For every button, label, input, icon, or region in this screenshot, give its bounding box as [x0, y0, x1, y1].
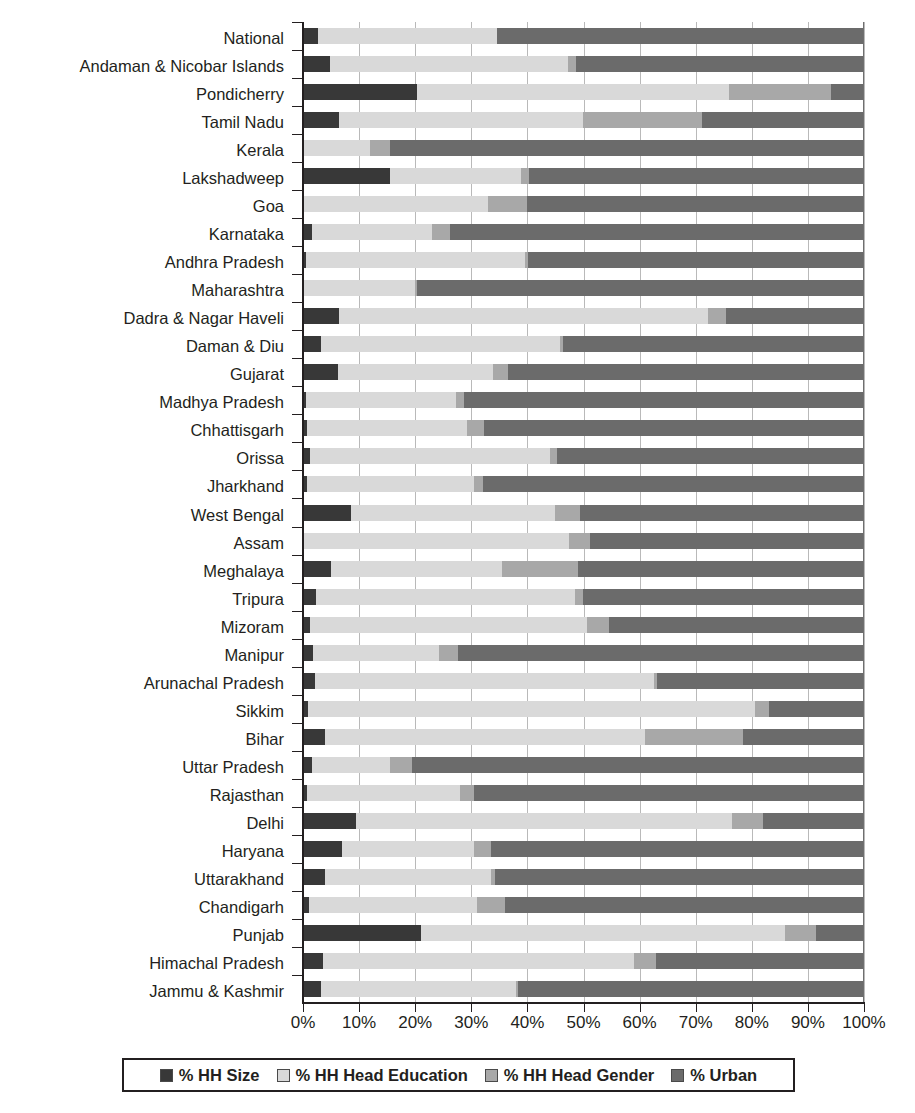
bar-segment [325, 869, 490, 885]
bar-segment [315, 673, 653, 689]
legend-label: % HH Size [179, 1066, 260, 1085]
bar-segment [351, 505, 555, 521]
legend-label: % Urban [690, 1066, 757, 1085]
bar-row [303, 981, 864, 997]
bar-segment [339, 308, 708, 324]
bar-segment [390, 757, 412, 773]
bar-row [303, 168, 864, 184]
bar-segment [657, 673, 864, 689]
y-axis-tick [292, 246, 303, 247]
y-axis-category-label: Bihar [0, 730, 292, 749]
y-axis-category-label: Manipur [0, 646, 292, 665]
gridline [864, 22, 865, 1003]
y-axis-tick [292, 274, 303, 275]
bar-segment [330, 56, 568, 72]
bar-row [303, 56, 864, 72]
bar-segment [303, 869, 325, 885]
bar-segment [432, 224, 450, 240]
y-axis-tick [292, 22, 303, 23]
bar-row [303, 729, 864, 745]
bar-segment [726, 308, 864, 324]
bar-segment [563, 336, 864, 352]
bar-row [303, 308, 864, 324]
legend-item[interactable]: % HH Head Gender [485, 1066, 654, 1085]
y-axis-tick [292, 50, 303, 51]
y-axis-category-label: Delhi [0, 814, 292, 833]
bar-segment [729, 84, 831, 100]
y-axis-category-label: National [0, 29, 292, 48]
bar-segment [303, 953, 323, 969]
bar-segment [310, 617, 588, 633]
bar-segment [645, 729, 743, 745]
y-axis-tick [292, 498, 303, 499]
y-axis-tick [292, 78, 303, 79]
y-axis-category-label: Uttarakhand [0, 870, 292, 889]
bar-row [303, 252, 864, 268]
bar-row [303, 280, 864, 296]
y-axis-category-label: Chandigarh [0, 898, 292, 917]
y-axis-tick [292, 975, 303, 976]
y-axis-category-label: West Bengal [0, 506, 292, 525]
bar-segment [303, 336, 321, 352]
bar-row [303, 224, 864, 240]
bar-segment [303, 673, 315, 689]
bar-segment [450, 224, 864, 240]
x-axis-tick-label: 10% [333, 1013, 385, 1033]
bar-segment [488, 196, 527, 212]
bar-segment [460, 785, 474, 801]
bar-segment [583, 112, 702, 128]
bar-segment [508, 364, 864, 380]
bar-segment [483, 476, 864, 492]
bar-segment [323, 953, 634, 969]
bar-row [303, 420, 864, 436]
bar-row [303, 841, 864, 857]
x-axis-tick-label: 50% [558, 1013, 610, 1033]
bar-segment [769, 701, 864, 717]
legend-item[interactable]: % HH Head Education [277, 1066, 468, 1085]
bar-segment [303, 813, 356, 829]
y-axis-category-label: Arunachal Pradesh [0, 674, 292, 693]
bar-segment [303, 56, 330, 72]
bar-segment [763, 813, 864, 829]
bar-segment [303, 280, 415, 296]
y-axis-tick [292, 947, 303, 948]
bar-row [303, 589, 864, 605]
y-axis-category-label: Maharashtra [0, 281, 292, 300]
bar-segment [732, 813, 763, 829]
y-axis-tick [292, 919, 303, 920]
y-axis-category-label: Dadra & Nagar Haveli [0, 309, 292, 328]
bar-segment [308, 701, 755, 717]
bar-segment [370, 140, 390, 156]
x-axis-tick [752, 1003, 753, 1012]
bar-segment [464, 392, 864, 408]
y-axis-tick [292, 330, 303, 331]
bar-segment [303, 925, 421, 941]
y-axis-line [302, 22, 304, 1003]
bar-segment [474, 841, 491, 857]
bar-row [303, 196, 864, 212]
legend-item[interactable]: % Urban [671, 1066, 757, 1085]
x-axis-tick [640, 1003, 641, 1012]
bar-segment [702, 112, 864, 128]
legend-item[interactable]: % HH Size [160, 1066, 260, 1085]
bar-segment [609, 617, 864, 633]
y-axis-tick [292, 611, 303, 612]
bar-row [303, 673, 864, 689]
plot-area [303, 22, 864, 1003]
bar-segment [325, 729, 645, 745]
bar-row [303, 448, 864, 464]
bar-segment [417, 280, 864, 296]
bar-segment [303, 84, 417, 100]
bar-segment [576, 56, 864, 72]
bar-segment [310, 448, 550, 464]
bar-segment [550, 448, 557, 464]
x-axis-tick [527, 1003, 528, 1012]
bar-row [303, 757, 864, 773]
bar-segment [356, 813, 732, 829]
bar-row [303, 561, 864, 577]
bar-segment [303, 561, 331, 577]
bar-segment [303, 28, 318, 44]
bar-segment [312, 757, 390, 773]
y-axis-tick [292, 779, 303, 780]
bar-segment [303, 981, 321, 997]
